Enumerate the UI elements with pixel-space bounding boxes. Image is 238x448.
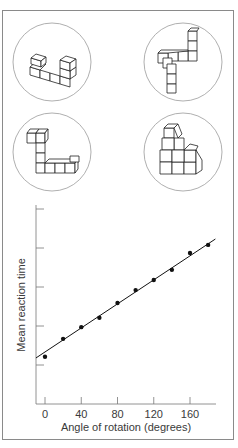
reaction-time-chart: 04080120160 Angle of rotation (degrees) … xyxy=(15,205,216,433)
data-point xyxy=(133,288,137,292)
data-point xyxy=(61,337,65,341)
stimulus-top-left xyxy=(13,23,91,101)
x-tick-label: 40 xyxy=(75,408,87,420)
data-point xyxy=(170,268,174,272)
y-axis-label: Mean reaction time xyxy=(15,258,27,352)
cube-figure-icon xyxy=(158,28,199,93)
x-axis-label: Angle of rotation (degrees) xyxy=(61,421,191,433)
x-axis-ticks: 04080120160 xyxy=(42,397,199,420)
stimulus-bottom-left xyxy=(13,113,91,191)
cube-figure-icon xyxy=(160,124,202,174)
x-tick-label: 160 xyxy=(181,408,199,420)
x-tick-label: 80 xyxy=(111,408,123,420)
data-point xyxy=(206,243,210,247)
x-tick-label: 120 xyxy=(145,408,163,420)
data-point xyxy=(97,316,101,320)
stimulus-bottom-right xyxy=(144,113,222,191)
data-point xyxy=(188,251,192,255)
data-points xyxy=(43,243,211,359)
figure-canvas: 04080120160 Angle of rotation (degrees) … xyxy=(0,0,238,448)
data-point xyxy=(152,278,156,282)
data-point xyxy=(115,301,119,305)
cube-figure-icon xyxy=(27,129,79,173)
data-point xyxy=(79,325,83,329)
x-tick-label: 0 xyxy=(42,408,48,420)
cube-figure-icon xyxy=(30,54,76,87)
stimulus-top-right xyxy=(144,23,222,101)
y-axis-ticks xyxy=(36,209,44,365)
data-point xyxy=(43,355,47,359)
